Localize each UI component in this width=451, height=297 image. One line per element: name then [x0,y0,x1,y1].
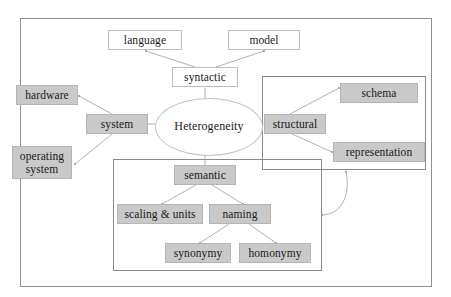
node-homonymy-label: homonymy [248,247,301,260]
node-model[interactable]: model [228,30,300,50]
node-heterogeneity[interactable]: Heterogeneity [155,98,263,156]
node-scaling-and-units-label: scaling & units [124,208,195,221]
node-operating-system[interactable]: operating system [12,146,72,179]
node-representation-label: representation [346,146,413,159]
node-system[interactable]: system [86,114,148,134]
node-synonymy-label: synonymy [174,247,223,260]
node-syntactic-label: syntactic [184,71,226,84]
node-structural[interactable]: structural [264,114,326,134]
node-schema-label: schema [361,87,396,100]
node-scaling-and-units[interactable]: scaling & units [117,204,203,224]
node-naming-label: naming [222,208,257,221]
node-representation[interactable]: representation [333,142,425,162]
node-semantic-label: semantic [184,169,226,182]
node-operating-system-label: operating system [20,150,64,176]
node-structural-label: structural [273,118,317,131]
node-language-label: language [124,34,166,47]
node-syntactic[interactable]: syntactic [172,67,238,87]
node-language[interactable]: language [108,30,182,50]
node-model-label: model [249,34,278,47]
node-heterogeneity-label: Heterogeneity [174,120,243,133]
node-hardware[interactable]: hardware [16,85,78,105]
node-schema[interactable]: schema [340,83,418,103]
node-system-label: system [101,118,134,131]
diagram-canvas: language model syntactic Heterogeneity h… [0,0,451,297]
node-semantic[interactable]: semantic [174,165,236,185]
node-hardware-label: hardware [25,89,69,102]
node-homonymy[interactable]: homonymy [239,243,311,263]
node-synonymy[interactable]: synonymy [165,243,231,263]
node-naming[interactable]: naming [209,204,271,224]
